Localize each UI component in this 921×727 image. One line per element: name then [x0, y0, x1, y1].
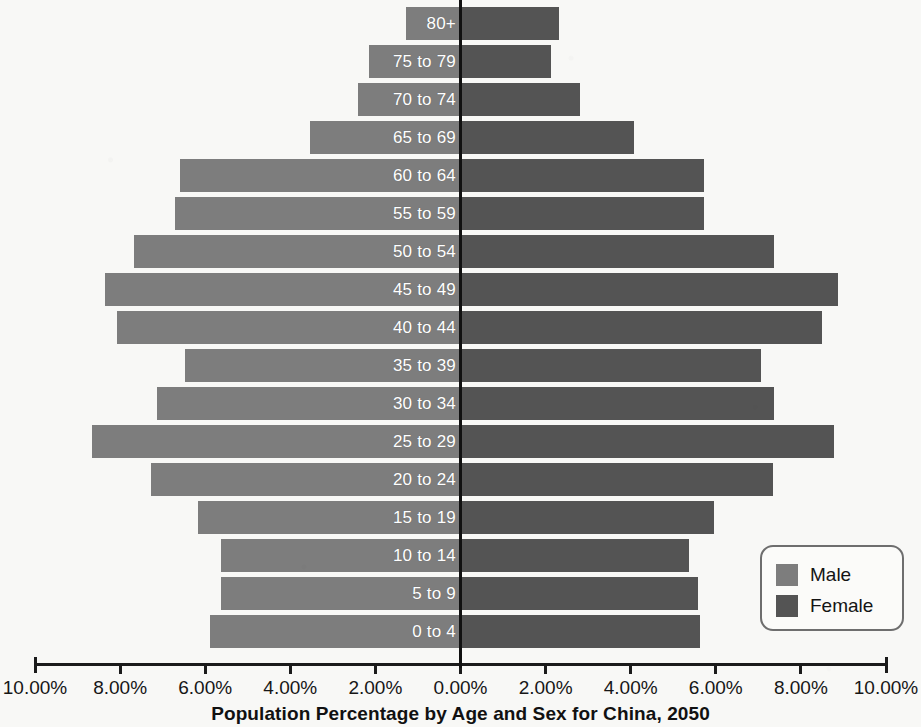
chart-title: Population Percentage by Age and Sex for… — [0, 703, 921, 725]
age-group-label: 70 to 74 — [393, 83, 456, 116]
age-group-label: 75 to 79 — [393, 45, 456, 78]
age-group-label: 0 to 4 — [412, 615, 456, 648]
x-axis-tick — [799, 663, 802, 674]
x-axis-tick — [119, 663, 122, 674]
zero-axis-line — [459, 0, 462, 668]
x-axis-tick — [544, 663, 547, 674]
age-group-label: 35 to 39 — [393, 349, 456, 382]
legend-item-male: Male — [776, 559, 902, 590]
bar-female — [461, 501, 714, 534]
age-group-label: 60 to 64 — [393, 159, 456, 192]
x-axis-tick-label: 4.00% — [604, 677, 658, 699]
age-group-label: 5 to 9 — [412, 577, 456, 610]
x-axis-tick — [204, 663, 207, 674]
bar-female — [461, 7, 559, 40]
legend-label-male: Male — [810, 565, 851, 584]
x-axis-tick-label: 8.00% — [93, 677, 147, 699]
bar-female — [461, 159, 704, 192]
bar-female — [461, 539, 689, 572]
chart-legend: Male Female — [760, 545, 904, 631]
bar-female — [461, 577, 698, 610]
bar-female — [461, 273, 838, 306]
bar-female — [461, 425, 835, 458]
bar-female — [461, 387, 774, 420]
bar-female — [461, 463, 773, 496]
x-axis-tick — [629, 663, 632, 674]
age-group-label: 25 to 29 — [393, 425, 456, 458]
x-axis-tick — [374, 663, 377, 674]
population-pyramid-chart: 80+75 to 7970 to 7465 to 6960 to 6455 to… — [0, 0, 921, 727]
legend-swatch-female — [776, 595, 798, 617]
legend-label-female: Female — [810, 596, 873, 615]
bar-female — [461, 121, 634, 154]
age-group-label: 45 to 49 — [393, 273, 456, 306]
bar-female — [461, 349, 761, 382]
legend-item-female: Female — [776, 590, 902, 621]
age-group-label: 50 to 54 — [393, 235, 456, 268]
legend-swatch-male — [776, 564, 798, 586]
age-group-label: 30 to 34 — [393, 387, 456, 420]
bar-female — [461, 615, 700, 648]
x-axis-tick-label: 2.00% — [348, 677, 402, 699]
x-axis-tick-label: 2.00% — [519, 677, 573, 699]
bar-female — [461, 311, 823, 344]
x-axis-tick — [885, 657, 888, 673]
age-group-label: 80+ — [427, 7, 456, 40]
x-axis-tick-label: 10.00% — [854, 677, 918, 699]
x-axis-tick — [714, 663, 717, 674]
bar-female — [461, 197, 704, 230]
bar-female — [461, 45, 551, 78]
x-axis-tick — [289, 663, 292, 674]
age-group-label: 20 to 24 — [393, 463, 456, 496]
bar-female — [461, 83, 581, 116]
age-group-label: 65 to 69 — [393, 121, 456, 154]
x-axis-tick-label: 4.00% — [263, 677, 317, 699]
age-group-label: 55 to 59 — [393, 197, 456, 230]
bar-female — [461, 235, 774, 268]
x-axis-tick-label: 6.00% — [178, 677, 232, 699]
x-axis-tick-label: 10.00% — [3, 677, 67, 699]
x-axis-tick-label: 6.00% — [689, 677, 743, 699]
x-axis-tick-label: 0.00% — [434, 677, 488, 699]
age-group-label: 40 to 44 — [393, 311, 456, 344]
age-group-label: 10 to 14 — [393, 539, 456, 572]
x-axis-tick-label: 8.00% — [774, 677, 828, 699]
age-group-label: 15 to 19 — [393, 501, 456, 534]
x-axis-tick — [34, 657, 37, 673]
